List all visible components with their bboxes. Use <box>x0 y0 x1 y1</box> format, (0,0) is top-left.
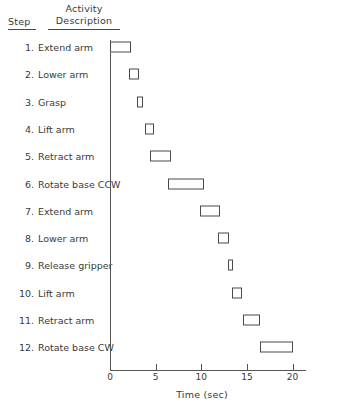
gantt-bar <box>168 178 204 189</box>
x-axis-tick-label: 20 <box>287 372 298 382</box>
x-axis-tick-label: 5 <box>153 372 159 382</box>
row-step-number: 5. <box>8 151 34 162</box>
row-step-number: 10. <box>8 287 34 298</box>
row-activity-description: Lift arm <box>38 287 75 298</box>
row-activity-description: Release gripper <box>38 260 113 271</box>
gantt-bar <box>260 342 293 353</box>
row-step-number: 6. <box>8 178 34 189</box>
x-axis-tick <box>156 364 157 370</box>
gantt-bar <box>218 233 229 244</box>
x-axis-tick-label: 0 <box>107 372 113 382</box>
row-activity-description: Lift arm <box>38 123 75 134</box>
row-activity-description: Rotate base CW <box>38 342 114 353</box>
row-step-number: 4. <box>8 123 34 134</box>
gantt-bar <box>110 42 131 53</box>
row-step-number: 8. <box>8 233 34 244</box>
row-step-number: 3. <box>8 96 34 107</box>
row-activity-description: Retract arm <box>38 315 94 326</box>
row-activity-description: Extend arm <box>38 42 93 53</box>
y-axis-line <box>110 40 111 370</box>
gantt-bar <box>129 69 139 80</box>
gantt-bar <box>200 205 219 216</box>
column-header-activity-line2: Description <box>47 15 121 27</box>
row-step-number: 11. <box>8 315 34 326</box>
x-axis-tick-label: 15 <box>241 372 252 382</box>
row-activity-description: Retract arm <box>38 151 94 162</box>
column-header-activity-line1: Activity <box>47 3 121 15</box>
row-step-number: 2. <box>8 69 34 80</box>
row-step-number: 12. <box>8 342 34 353</box>
row-activity-description: Extend arm <box>38 205 93 216</box>
gantt-bar <box>137 96 142 107</box>
x-axis-tick <box>293 364 294 370</box>
column-header-step-underline <box>8 29 36 30</box>
gantt-chart: Step Activity Description 1.Extend arm2.… <box>0 0 340 415</box>
gantt-bar <box>150 151 171 162</box>
row-step-number: 7. <box>8 205 34 216</box>
column-header-step: Step <box>8 16 30 27</box>
x-axis-title: Time (sec) <box>110 389 294 400</box>
row-step-number: 9. <box>8 260 34 271</box>
row-activity-description: Rotate base CCW <box>38 178 120 189</box>
x-axis-line <box>110 370 306 371</box>
row-activity-description: Grasp <box>38 96 66 107</box>
x-axis-tick <box>110 364 111 370</box>
row-activity-description: Lower arm <box>38 233 88 244</box>
x-axis-tick-label: 10 <box>196 372 207 382</box>
x-axis-tick <box>201 364 202 370</box>
column-header-activity-description: Activity Description <box>47 3 121 27</box>
row-activity-description: Lower arm <box>38 69 88 80</box>
x-axis-tick <box>247 364 248 370</box>
gantt-bar <box>232 287 242 298</box>
gantt-bar <box>228 260 233 271</box>
gantt-bar <box>243 315 259 326</box>
column-header-activity-underline <box>48 29 120 30</box>
row-step-number: 1. <box>8 42 34 53</box>
gantt-bar <box>145 123 154 134</box>
